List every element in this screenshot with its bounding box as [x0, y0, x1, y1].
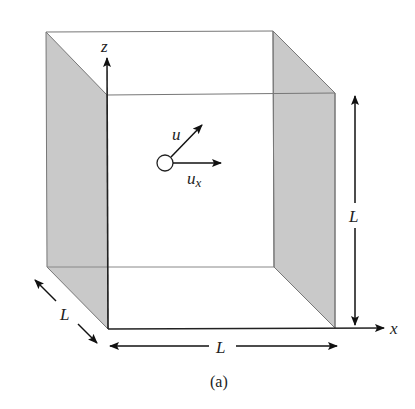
velocity-component-label: ux — [187, 169, 202, 190]
height-dimension-label: L — [348, 207, 358, 226]
back-top-edge — [46, 31, 273, 32]
z-axis-label: z — [100, 37, 108, 56]
velocity-label: u — [172, 125, 181, 144]
depth-dimension-arrow-upper — [35, 280, 56, 301]
figure-caption: (a) — [210, 373, 228, 391]
cube-diagram: x z u ux L L L (a) — [0, 0, 415, 409]
x-axis-label: x — [389, 319, 398, 338]
left-wall-shaded — [46, 32, 108, 329]
depth-dimension-label: L — [59, 305, 69, 324]
component-base: u — [187, 169, 196, 188]
x-axis — [108, 328, 384, 329]
component-subscript: x — [195, 175, 202, 190]
width-dimension-label: L — [215, 338, 225, 357]
depth-dimension-arrow-lower — [78, 324, 97, 343]
right-wall-shaded — [273, 31, 335, 328]
z-axis — [107, 58, 108, 329]
particle — [157, 155, 173, 171]
